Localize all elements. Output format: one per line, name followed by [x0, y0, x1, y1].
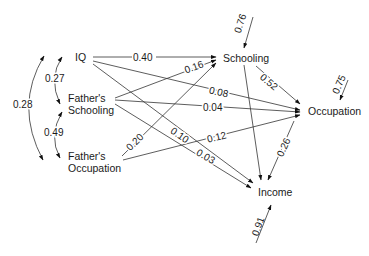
- svg-text:0.10: 0.10: [169, 125, 192, 145]
- coef-fschool-income: 0.03: [195, 147, 218, 166]
- node-occupation: Occupation: [308, 105, 361, 117]
- node-father-occupation-line1: Father's: [68, 150, 121, 162]
- residual-schooling-label: 0.76: [232, 12, 249, 34]
- corr-label-iq-focc: 0.28: [13, 99, 33, 110]
- svg-text:0.40: 0.40: [133, 52, 153, 63]
- diagram-canvas: 0.40 0.16 0.20 0.08 0.04 0.12 0.52 0.10 …: [0, 0, 369, 256]
- path-diagram: 0.40 0.16 0.20 0.08 0.04 0.12 0.52 0.10 …: [0, 0, 369, 256]
- coef-occupation-income: 0.26: [275, 136, 293, 159]
- svg-text:0.08: 0.08: [208, 84, 230, 99]
- coef-fschool-occupation: 0.04: [203, 102, 223, 113]
- node-father-schooling-line2: Schooling: [68, 104, 114, 116]
- svg-text:0.16: 0.16: [183, 58, 205, 75]
- svg-text:0.52: 0.52: [258, 71, 280, 92]
- svg-text:0.04: 0.04: [203, 102, 223, 113]
- residual-occupation-label: 0.75: [330, 73, 348, 96]
- node-schooling: Schooling: [223, 52, 269, 64]
- corr-label-fschool-focc: 0.49: [44, 127, 64, 138]
- svg-text:0.03: 0.03: [195, 147, 218, 166]
- svg-text:0.26: 0.26: [275, 136, 293, 159]
- node-father-occupation-line2: Occupation: [68, 162, 121, 174]
- node-iq: IQ: [75, 51, 86, 63]
- coef-iq-occupation: 0.08: [208, 84, 230, 99]
- coef-iq-income: 0.10: [169, 125, 192, 145]
- residual-income-label: 0.91: [250, 215, 267, 237]
- svg-text:0.75: 0.75: [330, 73, 348, 96]
- node-father-occupation: Father's Occupation: [68, 150, 121, 174]
- svg-text:0.20: 0.20: [124, 131, 146, 153]
- node-income: Income: [258, 186, 292, 198]
- svg-text:0.12: 0.12: [206, 129, 228, 144]
- svg-text:0.76: 0.76: [232, 12, 249, 34]
- coef-iq-schooling: 0.40: [132, 51, 156, 63]
- path-schooling-income: [244, 65, 261, 180]
- corr-label-iq-fschool: 0.27: [45, 73, 65, 84]
- node-father-schooling-line1: Father's: [68, 92, 114, 104]
- coef-focc-schooling: 0.20: [124, 131, 146, 153]
- node-father-schooling: Father's Schooling: [68, 92, 114, 116]
- svg-text:0.91: 0.91: [250, 215, 267, 237]
- coef-focc-occupation: 0.12: [206, 129, 228, 144]
- coef-schooling-occupation: 0.52: [258, 71, 280, 92]
- coef-fschool-schooling: 0.16: [183, 58, 205, 75]
